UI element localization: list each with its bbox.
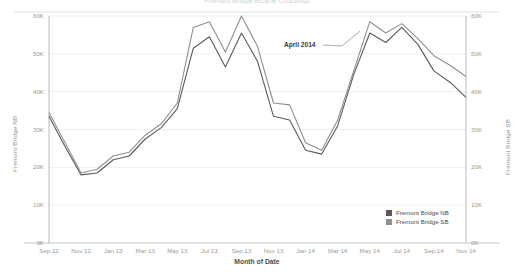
left-tick-label: 0K	[20, 239, 44, 246]
left-tick-label: 10K	[20, 201, 44, 208]
right-tick-label: 20K	[471, 163, 495, 170]
legend-label-sb: Fremont Bridge SB	[396, 218, 449, 225]
gridlines	[49, 16, 466, 205]
right-tick-label: 30K	[471, 126, 495, 133]
legend-label-nb: Fremont Bridge NB	[396, 209, 449, 216]
plot-area	[0, 0, 514, 272]
series-line-sb	[49, 16, 466, 173]
left-tick-label: 20K	[20, 163, 44, 170]
legend-item-sb[interactable]: Fremont Bridge SB	[386, 218, 449, 225]
series-lines	[49, 16, 466, 175]
right-axis-title: Fremont Bridge SB	[504, 119, 511, 175]
legend: Fremont Bridge NB Fremont Bridge SB	[386, 209, 449, 227]
right-tick-label: 50K	[471, 50, 495, 57]
legend-swatch-nb	[386, 210, 392, 216]
left-axis-title: Fremont Bridge NB	[11, 116, 18, 172]
left-tick-label: 60K	[20, 12, 44, 19]
right-tick-label: 0K	[471, 239, 495, 246]
x-axis-title: Month of Date	[0, 258, 514, 265]
left-tick-label: 40K	[20, 88, 44, 95]
annotation-leader-line	[323, 31, 360, 46]
legend-swatch-sb	[386, 219, 392, 225]
x-tick-label: Nov 14	[446, 247, 486, 254]
right-tick-label: 40K	[471, 88, 495, 95]
annotation-april-2014: April 2014	[284, 41, 316, 48]
chart-container: Fremont Bridge Bicycle Crossings Fremont…	[0, 0, 514, 272]
legend-item-nb[interactable]: Fremont Bridge NB	[386, 209, 449, 216]
right-tick-label: 60K	[471, 12, 495, 19]
right-tick-label: 10K	[471, 201, 495, 208]
left-tick-label: 30K	[20, 126, 44, 133]
left-tick-label: 50K	[20, 50, 44, 57]
series-line-nb	[49, 27, 466, 175]
